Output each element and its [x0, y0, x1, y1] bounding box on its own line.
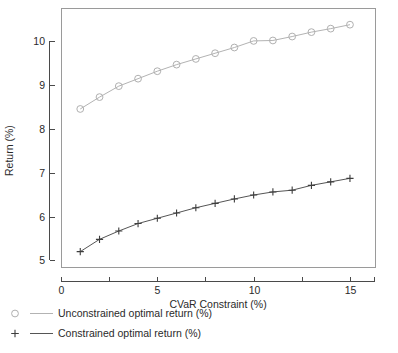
cvar-return-line-chart: 5678910Return (%)051015CVaR Constraint (…	[0, 0, 398, 353]
data-point-constrained-14	[346, 175, 353, 182]
data-point-constrained-5	[173, 209, 180, 216]
y-tick-label-5: 10	[33, 35, 45, 47]
data-point-constrained-3	[134, 220, 141, 227]
legend-entry-1: Constrained optimal return (%)	[11, 327, 201, 339]
data-point-constrained-8	[231, 195, 238, 202]
data-point-constrained-7	[212, 200, 219, 207]
x-tick-label-0: 0	[59, 284, 65, 296]
legend-label-0: Unconstrained optimal return (%)	[58, 307, 212, 319]
y-tick-label-4: 9	[39, 79, 45, 91]
series-line-unconstrained	[80, 25, 350, 109]
x-tick-label-1: 5	[155, 284, 161, 296]
x-tick-label-2: 10	[249, 284, 261, 296]
plus-icon	[11, 330, 19, 338]
y-axis-title: Return (%)	[3, 125, 15, 176]
y-tick-label-1: 6	[39, 211, 45, 223]
legend-label-1: Constrained optimal return (%)	[58, 327, 201, 339]
y-tick-label-0: 5	[39, 254, 45, 266]
data-point-constrained-2	[115, 227, 122, 234]
data-point-constrained-6	[192, 204, 199, 211]
y-tick-label-2: 7	[39, 167, 45, 179]
data-point-constrained-1	[96, 236, 103, 243]
x-tick-label-3: 15	[345, 284, 357, 296]
series-line-constrained	[80, 178, 350, 251]
data-point-constrained-12	[308, 182, 315, 189]
data-point-constrained-13	[327, 178, 334, 185]
plot-area-frame	[62, 9, 376, 268]
chart-figure: 5678910Return (%)051015CVaR Constraint (…	[0, 0, 398, 353]
data-point-constrained-9	[250, 191, 257, 198]
data-point-constrained-11	[289, 187, 296, 194]
data-point-constrained-4	[154, 215, 161, 222]
circle-icon	[12, 310, 19, 317]
legend-entry-0: Unconstrained optimal return (%)	[12, 307, 212, 319]
data-point-constrained-10	[269, 188, 276, 195]
y-tick-label-3: 8	[39, 123, 45, 135]
data-point-constrained-0	[77, 248, 84, 255]
